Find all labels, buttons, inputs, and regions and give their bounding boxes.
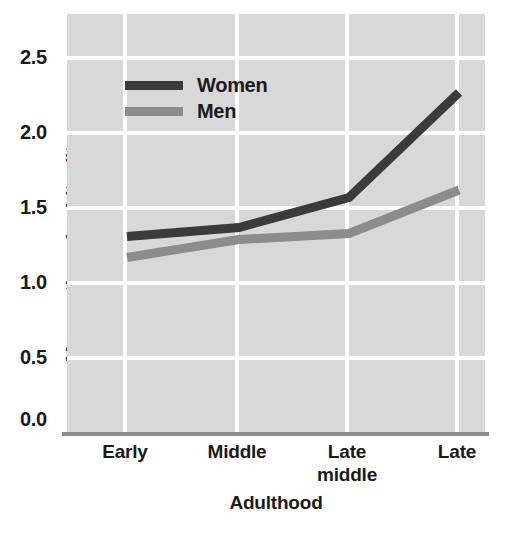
spirituality-line-chart: Mean rating of spirituality 2.5 2.0 1.5 … [0, 0, 505, 538]
series-line-men [127, 190, 459, 258]
x-tick-label-early: Early [60, 440, 190, 463]
legend-swatch-men [125, 107, 183, 116]
legend-item-men: Men [125, 98, 267, 124]
y-tick-label-0.5: 0.5 [20, 346, 72, 369]
y-tick-label-1.5: 1.5 [20, 196, 72, 219]
y-tick-label-2.0: 2.0 [20, 121, 72, 144]
legend: Women Men [125, 72, 267, 124]
plot-area: Women Men [67, 14, 485, 434]
y-tick-label-1.0: 1.0 [20, 271, 72, 294]
legend-swatch-women [125, 81, 183, 90]
x-tick-late-middle-line2: middle [282, 463, 412, 486]
y-tick-labels: 2.5 2.0 1.5 1.0 0.5 0.0 [14, 0, 72, 460]
x-tick-label-late: Late [392, 440, 505, 463]
x-axis-line [62, 432, 489, 436]
x-tick-late-line1: Late [392, 440, 505, 463]
legend-label-women: Women [197, 74, 267, 97]
y-tick-label-0.0: 0.0 [20, 408, 72, 431]
legend-item-women: Women [125, 72, 267, 98]
legend-label-men: Men [197, 100, 236, 123]
x-axis-title: Adulthood [67, 492, 485, 514]
y-tick-label-2.5: 2.5 [20, 46, 72, 69]
x-tick-early-line1: Early [60, 440, 190, 463]
